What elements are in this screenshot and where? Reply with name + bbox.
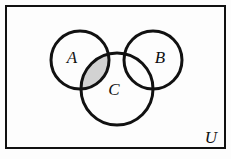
set-label-b: B — [155, 48, 166, 67]
venn-diagram-figure: A B C U — [0, 0, 231, 159]
universe-label: U — [205, 128, 219, 147]
set-label-c: C — [108, 80, 120, 99]
set-label-a: A — [66, 48, 78, 67]
universe-rectangle — [6, 6, 225, 148]
venn-diagram-canvas: A B C U — [0, 0, 231, 159]
